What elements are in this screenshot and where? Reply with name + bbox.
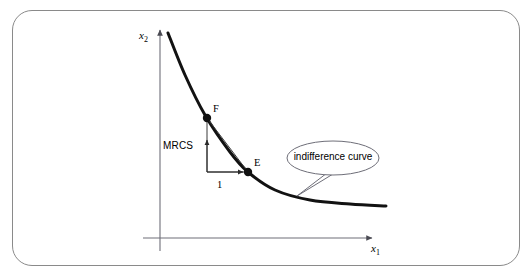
unit-step-label: 1 — [217, 180, 222, 191]
callout-tail — [297, 173, 333, 196]
callout-text: indifference curve — [287, 152, 379, 162]
point-f-label: F — [213, 104, 219, 115]
y-axis-label: x2 — [139, 30, 148, 44]
x-axis-label: x1 — [371, 243, 380, 257]
indifference-curve-diagram — [0, 0, 532, 280]
point-e-label: E — [254, 158, 260, 169]
point-f-marker — [203, 114, 211, 122]
point-e-marker — [244, 168, 252, 176]
figure-canvas: x2 x1 F E MRCS 1 indifference curve — [0, 0, 532, 280]
mrcs-label: MRCS — [163, 141, 193, 151]
indifference-curve-path — [168, 33, 386, 206]
chord-line — [207, 118, 248, 172]
